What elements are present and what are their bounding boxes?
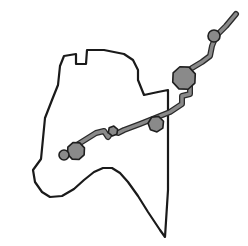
figure-root xyxy=(0,0,248,246)
node-small-bend xyxy=(108,126,117,136)
node-west-terminus xyxy=(68,143,85,160)
node-major-junction xyxy=(173,67,196,90)
node-northeast-stop xyxy=(208,30,220,42)
node-mid-crossing xyxy=(148,116,163,132)
node-isolated-point xyxy=(59,150,69,160)
diagram-canvas xyxy=(0,0,248,246)
